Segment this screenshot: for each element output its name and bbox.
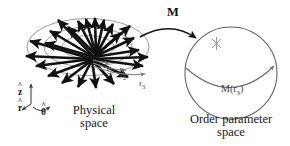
mapping-arrow xyxy=(140,29,196,38)
sphere-image-label: M(r3) xyxy=(221,84,243,97)
axis-label-r: ^r xyxy=(18,104,22,114)
sphere-outline xyxy=(185,27,277,119)
mapping-label-M: M xyxy=(167,6,179,19)
radius-label-r2: r2 xyxy=(120,70,126,82)
radius-label-r3: r3 xyxy=(139,79,145,91)
r-axis-line xyxy=(22,104,31,110)
order-parameter-sphere xyxy=(185,27,277,119)
radius-label-r1: r1 xyxy=(103,61,109,73)
ops-caption-line2: space xyxy=(176,126,286,139)
axis-label-theta: ^θ xyxy=(41,108,46,118)
physical-space-caption: Physical space xyxy=(59,104,129,130)
order-parameter-space-caption: Order parameter space xyxy=(176,113,286,139)
physical-space-caption-line2: space xyxy=(59,117,129,130)
asterisk-marker xyxy=(212,37,221,50)
vector-arrow xyxy=(95,18,96,55)
